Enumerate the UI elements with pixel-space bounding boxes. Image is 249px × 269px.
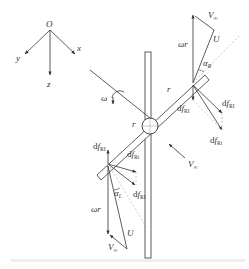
- lower-angle-label: αL: [114, 188, 122, 199]
- upper-force-label-2: dfRI: [222, 98, 235, 109]
- upper-relative-velocity-label: U: [213, 34, 220, 44]
- lower-omega-r-label: ωr: [91, 204, 101, 214]
- lower-relative-velocity-line: [108, 166, 127, 249]
- radius-label-upper: r: [167, 84, 171, 94]
- upper-angle-arc: [199, 70, 204, 72]
- upper-freestream-label: V∞: [208, 10, 218, 21]
- x-axis-arrow: [50, 30, 75, 54]
- lower-force-label-1: dfRI: [93, 141, 106, 152]
- lower-velocity-triangle: [108, 166, 127, 249]
- y-axis-arrow: [25, 30, 50, 54]
- freestream-label: V∞: [188, 159, 198, 170]
- upper-force-normal-arrow: [193, 85, 222, 113]
- upper-force-vectors: [193, 85, 222, 130]
- upper-velocity-triangle: [193, 15, 240, 83]
- radius-label-lower: r: [132, 119, 136, 129]
- upper-force-projection-1: [193, 100, 222, 130]
- freestream-arrow: [169, 144, 185, 158]
- x-axis-label: x: [76, 43, 81, 53]
- lower-freestream-label: V∞: [108, 242, 118, 253]
- upper-force-label-3: dfRt: [210, 135, 223, 146]
- rotor-shaft: [145, 52, 151, 258]
- upper-force-label-1: dfRI: [177, 103, 190, 114]
- lower-relative-velocity-label: U: [127, 228, 134, 238]
- lower-force-label-2: dfRt: [127, 149, 140, 160]
- rotor-diagram: O y x z ω r r ωr V∞ U αR dfRI dfRI dfRt: [0, 0, 249, 269]
- upper-angle-label: αR: [203, 58, 212, 69]
- omega-label: ω: [101, 93, 107, 103]
- upper-omega-r-label: ωr: [178, 39, 188, 49]
- z-axis-label: z: [46, 79, 51, 89]
- origin-label: O: [46, 19, 53, 29]
- lower-force-label-3: dfRI: [133, 189, 146, 200]
- y-axis-label: y: [15, 53, 20, 63]
- upper-relative-velocity-line: [193, 30, 214, 83]
- faded-caption: [10, 259, 246, 262]
- upper-force-resultant-arrow: [193, 85, 222, 130]
- lower-force-resultant-arrow: [108, 164, 135, 185]
- coordinate-axes: [25, 30, 75, 75]
